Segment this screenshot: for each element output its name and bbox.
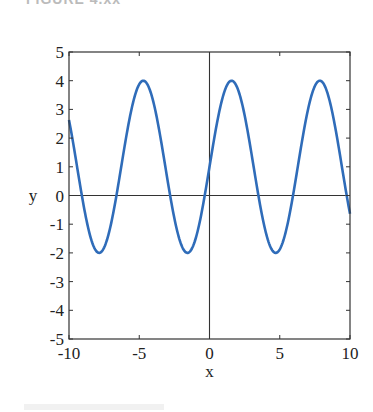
y-axis-label: y — [29, 186, 38, 205]
y-tick-label: 3 — [56, 100, 65, 119]
y-tick-label: -5 — [50, 330, 64, 349]
y-tick-label: -1 — [50, 215, 64, 234]
x-tick-label: 10 — [342, 344, 359, 363]
y-tick-label: -3 — [50, 273, 64, 292]
y-tick-label: 5 — [56, 43, 65, 62]
x-tick-label: 0 — [205, 344, 214, 363]
y-tick-label: 0 — [56, 187, 65, 206]
y-tick-label: 4 — [56, 72, 65, 91]
x-tick-label: -5 — [132, 344, 146, 363]
y-tick-label: 1 — [56, 158, 65, 177]
x-axis-label: x — [205, 362, 214, 381]
x-tick-labels: -10-50510 — [58, 344, 359, 363]
clipped-caption-strip — [24, 404, 164, 410]
zero-axes — [69, 52, 350, 339]
y-tick-labels: -5-4-3-2-1012345 — [50, 43, 65, 349]
y-tick-label: 2 — [56, 129, 65, 148]
y-tick-label: -4 — [50, 301, 65, 320]
line-chart: -10-50510 -5-4-3-2-1012345 x y — [0, 0, 373, 412]
y-tick-label: -2 — [50, 244, 64, 263]
x-tick-label: 5 — [276, 344, 285, 363]
